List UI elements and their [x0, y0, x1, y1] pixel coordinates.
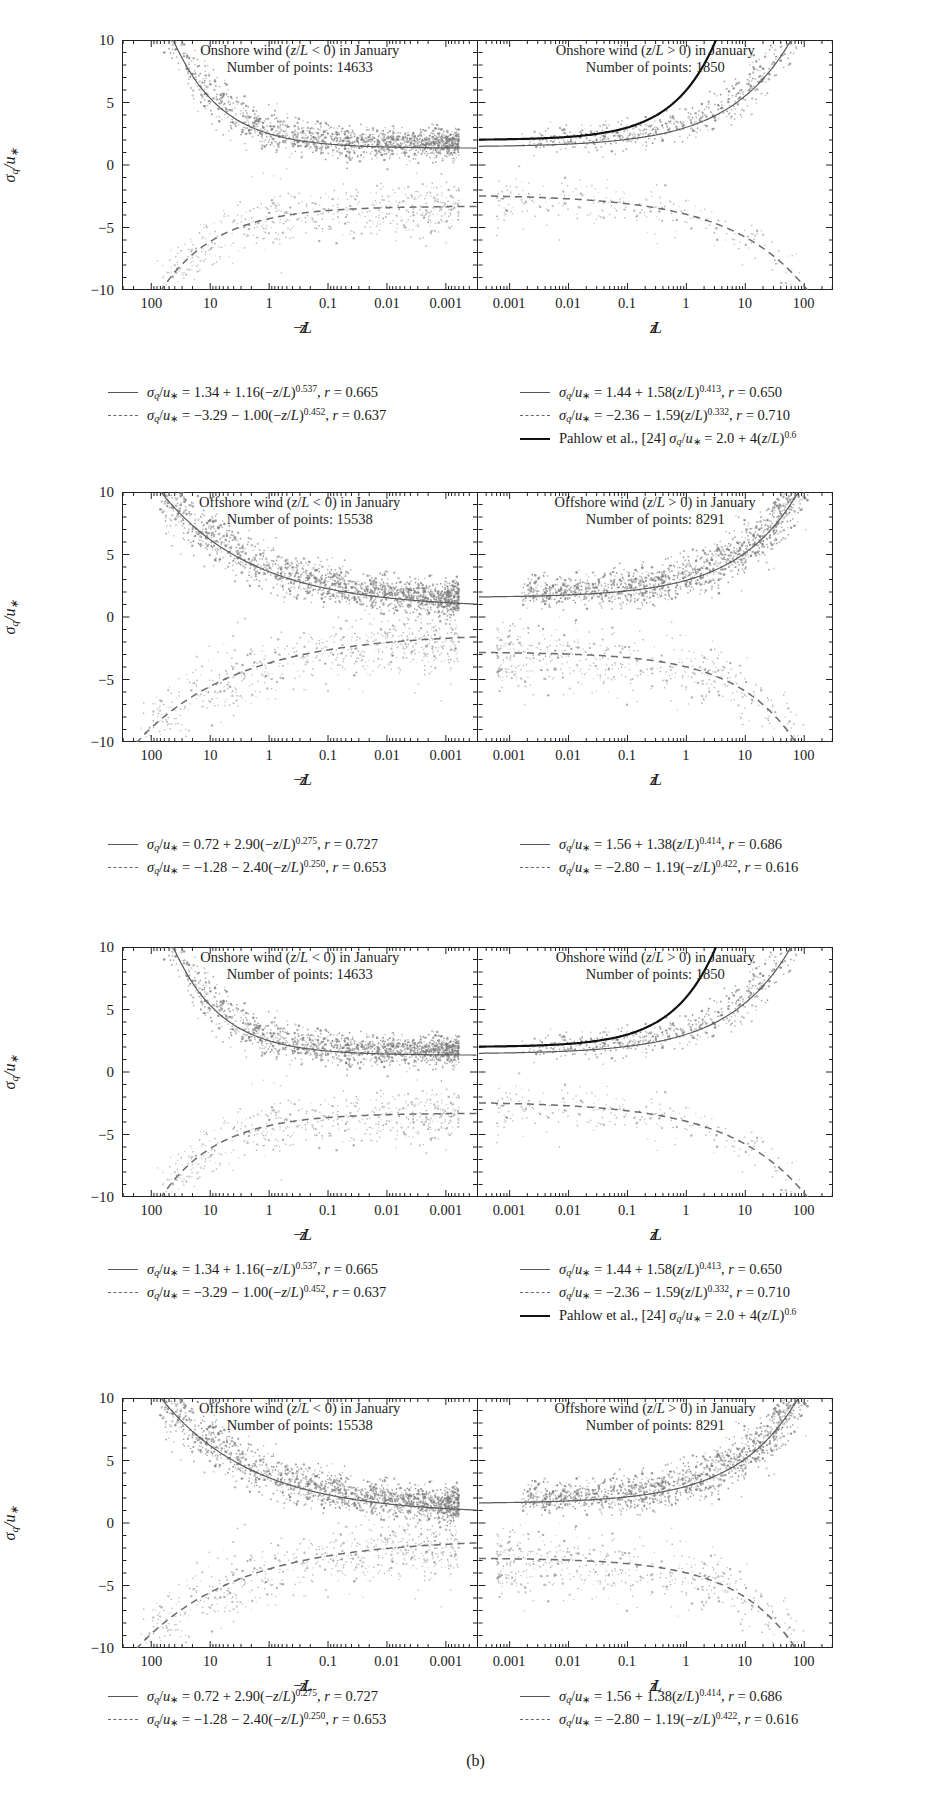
legend-swatch-dashed-icon — [108, 410, 138, 422]
y-axis: 1050−5−10σq/u∗ — [0, 1398, 122, 1648]
x-tick-label: 100 — [793, 295, 815, 312]
x-tick-label: 100 — [140, 1653, 162, 1670]
x-axis-title-left: −z/L — [292, 1226, 307, 1244]
panel-title-right-line1: Offshore wind (z/L > 0) in January — [555, 1400, 756, 1416]
x-tick-label: 10 — [203, 1202, 218, 1219]
legend-item: σq/u∗ = 1.44 + 1.58(z/L)0.413, r = 0.650 — [520, 1258, 796, 1281]
x-tick-label: 0.01 — [374, 747, 399, 764]
legend-label: σq/u∗ = −3.29 − 1.00(−z/L)0.452, r = 0.6… — [147, 407, 386, 424]
legend-swatch-dashed-icon — [108, 1287, 138, 1299]
legend-item: σq/u∗ = 1.56 + 1.38(z/L)0.414, r = 0.686 — [520, 833, 798, 856]
plot-area: Offshore wind (z/L < 0) in JanuaryNumber… — [122, 1398, 833, 1648]
scatter-left: Offshore wind (z/L < 0) in JanuaryNumber… — [122, 492, 478, 742]
y-tick-label: −5 — [98, 1127, 114, 1142]
x-tick-label: 100 — [793, 747, 815, 764]
chart-block-1: 1050−5−10σq/u∗Offshore wind (z/L < 0) in… — [0, 492, 951, 802]
legend-swatch-dashed-icon — [108, 1714, 138, 1726]
x-tick-label: 10 — [203, 747, 218, 764]
x-tick-label: 0.01 — [374, 295, 399, 312]
x-tick-label: 0.001 — [493, 1202, 526, 1219]
panel-title-right: Onshore wind (z/L > 0) in JanuaryNumber … — [478, 42, 834, 76]
panel-title-left: Offshore wind (z/L < 0) in JanuaryNumber… — [122, 494, 478, 528]
x-axis-title-right: z/L — [653, 319, 657, 337]
y-tick-label: −5 — [98, 220, 114, 235]
legend-item: Pahlow et al., [24] σq/u∗ = 2.0 + 4(z/L)… — [520, 1304, 796, 1327]
x-tick-label: 10 — [738, 747, 753, 764]
panel-divider — [477, 947, 478, 1197]
panel-title-left: Onshore wind (z/L < 0) in JanuaryNumber … — [122, 42, 478, 76]
legend-label: σq/u∗ = −2.36 − 1.59(z/L)0.332, r = 0.71… — [559, 407, 790, 424]
panel-title-left: Offshore wind (z/L < 0) in JanuaryNumber… — [122, 1400, 478, 1434]
legend-label: σq/u∗ = −1.28 − 2.40(−z/L)0.250, r = 0.6… — [147, 859, 386, 876]
legend-swatch-solid-icon — [520, 1264, 550, 1276]
x-tick-label: 0.1 — [319, 747, 337, 764]
x-tick-label: 0.01 — [555, 1653, 580, 1670]
scatter-right: Onshore wind (z/L > 0) in JanuaryNumber … — [478, 947, 834, 1197]
x-tick-label: 100 — [793, 1653, 815, 1670]
x-tick-label: 100 — [793, 1202, 815, 1219]
chart-block-2: 1050−5−10σq/u∗Onshore wind (z/L < 0) in … — [0, 947, 951, 1257]
legend-swatch-dashed-icon — [520, 1287, 550, 1299]
panel-divider — [477, 492, 478, 742]
legend-item: σq/u∗ = 1.56 + 1.38(z/L)0.414, r = 0.686 — [520, 1685, 798, 1708]
x-axis-titles: −z/Lz/L — [122, 319, 833, 341]
x-tick-label: 1 — [265, 1653, 272, 1670]
y-axis: 1050−5−10σq/u∗ — [0, 492, 122, 742]
legend-label: Pahlow et al., [24] σq/u∗ = 2.0 + 4(z/L)… — [559, 1307, 796, 1324]
panel-title-left-line2: Number of points: 14633 — [122, 966, 478, 983]
panel-title-right: Offshore wind (z/L > 0) in JanuaryNumber… — [478, 494, 834, 528]
panel-title-left-line1: Offshore wind (z/L < 0) in January — [199, 494, 400, 510]
x-tick-label: 0.01 — [374, 1653, 399, 1670]
y-tick-label: 5 — [107, 1002, 115, 1017]
x-tick-label: 0.001 — [493, 747, 526, 764]
legend-label: σq/u∗ = 0.72 + 2.90(−z/L)0.275, r = 0.72… — [147, 836, 378, 853]
y-tick-label: 10 — [99, 940, 114, 955]
x-tick-label: 10 — [738, 1653, 753, 1670]
y-tick-label: 5 — [107, 1453, 115, 1468]
x-tick-label: 0.1 — [319, 1653, 337, 1670]
y-tick-label: −5 — [98, 672, 114, 687]
panel-title-right-line2: Number of points: 1850 — [478, 59, 834, 76]
y-tick-label: −10 — [91, 1641, 114, 1656]
y-tick-label: 0 — [107, 158, 115, 173]
panel-divider — [477, 40, 478, 290]
legend-item: σq/u∗ = −2.80 − 1.19(−z/L)0.422, r = 0.6… — [520, 1708, 798, 1731]
y-tick-label: −5 — [98, 1578, 114, 1593]
legend-item: σq/u∗ = 1.34 + 1.16(−z/L)0.537, r = 0.66… — [108, 1258, 386, 1281]
legend-item: σq/u∗ = −3.29 − 1.00(−z/L)0.452, r = 0.6… — [108, 404, 386, 427]
legend-item: σq/u∗ = −2.36 − 1.59(z/L)0.332, r = 0.71… — [520, 1281, 796, 1304]
x-tick-label: 0.001 — [430, 295, 463, 312]
panel-title-right: Onshore wind (z/L > 0) in JanuaryNumber … — [478, 949, 834, 983]
x-tick-label: 10 — [738, 1202, 753, 1219]
legend-item: σq/u∗ = −1.28 − 2.40(−z/L)0.250, r = 0.6… — [108, 856, 386, 879]
x-tick-label: 0.1 — [319, 295, 337, 312]
legend-swatch-solid-icon — [108, 1691, 138, 1703]
panel-title-right-line1: Onshore wind (z/L > 0) in January — [556, 949, 755, 965]
legend-label: σq/u∗ = −2.80 − 1.19(−z/L)0.422, r = 0.6… — [559, 859, 798, 876]
y-tick-label: 0 — [107, 610, 115, 625]
legend-column-left: σq/u∗ = 0.72 + 2.90(−z/L)0.275, r = 0.72… — [108, 1685, 386, 1731]
x-tick-label: 0.01 — [374, 1202, 399, 1219]
x-tick-label: 100 — [140, 1202, 162, 1219]
x-tick-label: 1 — [265, 1202, 272, 1219]
x-tick-label: 0.001 — [430, 1202, 463, 1219]
x-axis-title-left: −z/L — [292, 771, 307, 789]
x-tick-label: 0.1 — [618, 1653, 636, 1670]
x-tick-label: 1 — [265, 295, 272, 312]
plot-area: Onshore wind (z/L < 0) in JanuaryNumber … — [122, 947, 833, 1197]
legend-swatch-dashed-icon — [520, 1714, 550, 1726]
x-tick-label: 0.001 — [493, 1653, 526, 1670]
y-axis: 1050−5−10σq/u∗ — [0, 947, 122, 1197]
legend-item: σq/u∗ = −2.36 − 1.59(z/L)0.332, r = 0.71… — [520, 404, 796, 427]
legend-column-right: σq/u∗ = 1.56 + 1.38(z/L)0.414, r = 0.686… — [520, 1685, 798, 1731]
panel-title-left-line1: Offshore wind (z/L < 0) in January — [199, 1400, 400, 1416]
x-tick-label: 0.001 — [493, 295, 526, 312]
legend-column-right: σq/u∗ = 1.44 + 1.58(z/L)0.413, r = 0.650… — [520, 381, 796, 450]
legend-swatch-solid-icon — [108, 387, 138, 399]
panel-title-right: Offshore wind (z/L > 0) in JanuaryNumber… — [478, 1400, 834, 1434]
legend-swatch-solid-icon — [520, 839, 550, 851]
x-tick-label: 0.001 — [430, 747, 463, 764]
figure-caption: (b) — [0, 1752, 951, 1770]
y-axis-title: σq/u∗ — [1, 1055, 21, 1090]
y-tick-label: 5 — [107, 95, 115, 110]
